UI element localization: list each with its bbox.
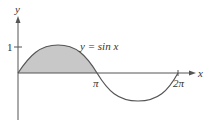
y-axis-arrow-icon bbox=[16, 16, 21, 23]
x-axis-label: x bbox=[197, 67, 203, 79]
y-tick-label: 1 bbox=[7, 41, 13, 53]
x-tick-label-2pi: 2π bbox=[173, 77, 185, 89]
sine-graph: y 1 x π 2π y = sin x bbox=[0, 0, 206, 124]
y-axis-label: y bbox=[14, 3, 20, 15]
x-tick-label-pi: π bbox=[93, 77, 99, 89]
function-label: y = sin x bbox=[79, 40, 118, 52]
x-axis-arrow-icon bbox=[189, 71, 196, 76]
